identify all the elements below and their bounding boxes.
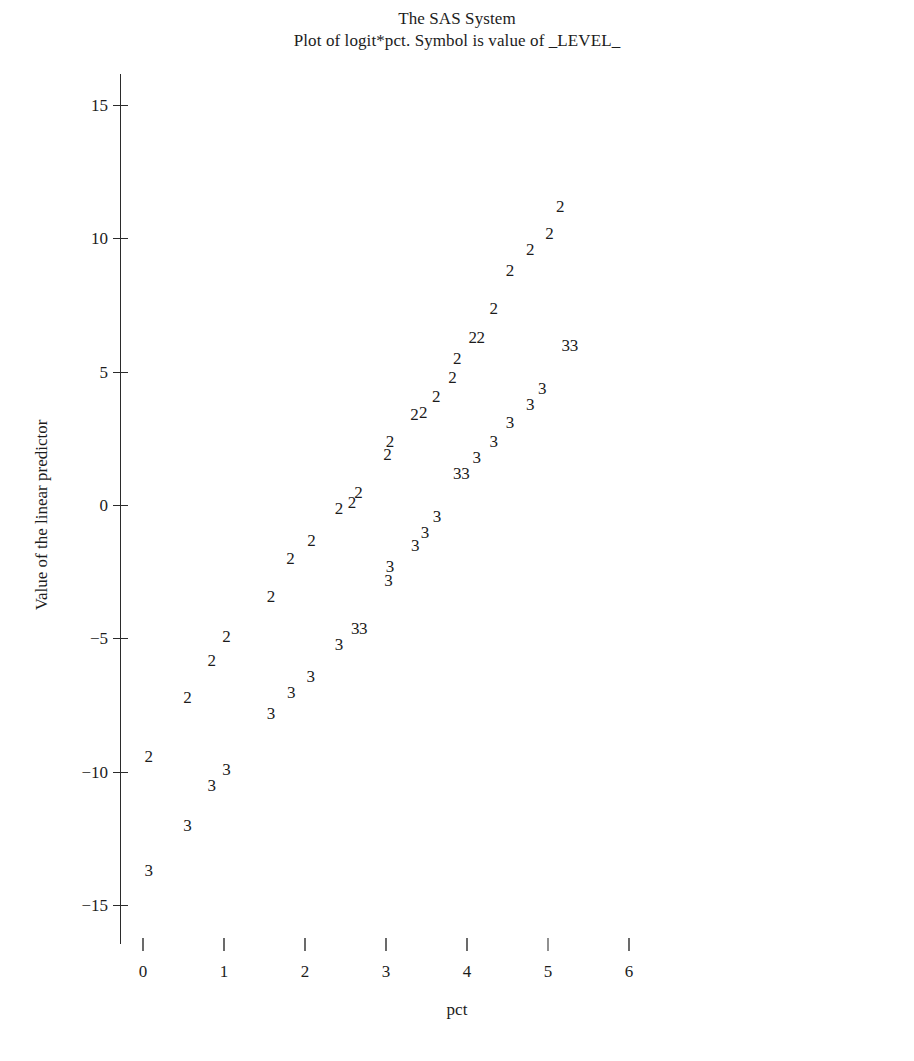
data-point-symbol: 2 — [410, 406, 419, 423]
data-point-symbol: 3 — [386, 558, 395, 575]
data-point-symbol: 2 — [489, 299, 498, 316]
data-point-symbol: 2 — [556, 198, 565, 215]
data-point-symbol: 2 — [453, 350, 462, 367]
y-axis-title: Value of the linear predictor — [32, 365, 52, 665]
ytick-label: −10 — [48, 763, 108, 783]
ytick-label: −5 — [48, 629, 108, 649]
ytick-label: −15 — [48, 896, 108, 916]
data-point-symbol: 2 — [545, 225, 554, 242]
ytick-label: 15 — [48, 96, 108, 116]
x-axis-line — [0, 930, 914, 954]
data-point-symbol: 3 — [222, 761, 231, 778]
xtick-label: 5 — [528, 962, 568, 982]
data-point-symbol: 2 — [144, 747, 153, 764]
ytick-label: 10 — [48, 229, 108, 249]
data-point-symbol: 3 — [433, 507, 442, 524]
data-point-symbol: 2 — [208, 651, 217, 668]
y-axis-line — [120, 74, 121, 944]
data-point-symbol: 3 — [526, 395, 535, 412]
data-point-symbol: 2 — [477, 329, 486, 346]
data-point-symbol: 2 — [506, 262, 515, 279]
data-point-symbol: 3 — [335, 635, 344, 652]
data-point-symbol: 2 — [286, 550, 295, 567]
data-point-symbol: 3 — [472, 449, 481, 466]
data-point-symbol: 3 — [411, 537, 420, 554]
data-point-symbol: 2 — [448, 369, 457, 386]
data-point-symbol: 3 — [489, 433, 498, 450]
ytick-label: 5 — [48, 363, 108, 383]
xtick-label: 6 — [609, 962, 649, 982]
data-point-symbol: 3 — [183, 817, 192, 834]
data-point-symbol: 3 — [267, 705, 276, 722]
data-point-symbol: 3 — [208, 777, 217, 794]
data-point-symbol: 2 — [267, 587, 276, 604]
xtick-label: 3 — [366, 962, 406, 982]
data-point-symbol: 3 — [570, 337, 579, 354]
data-point-symbol: 3 — [287, 683, 296, 700]
plot-area: 15 10 5 0 −5 −10 −15 0 1 2 3 4 5 6 pct V… — [0, 0, 914, 1061]
data-point-symbol: 2 — [354, 483, 363, 500]
data-point-symbol: 3 — [538, 379, 547, 396]
data-point-symbol: 3 — [144, 862, 153, 879]
data-point-symbol: 2 — [335, 499, 344, 516]
data-point-symbol: 2 — [386, 433, 395, 450]
xtick-label: 1 — [204, 962, 244, 982]
xtick-label: 4 — [447, 962, 487, 982]
ytick-label: 0 — [48, 496, 108, 516]
data-point-symbol: 3 — [306, 667, 315, 684]
data-point-symbol: 3 — [421, 523, 430, 540]
sas-plot-figure: The SAS System Plot of logit*pct. Symbol… — [0, 0, 914, 1061]
data-point-symbol: 3 — [359, 619, 368, 636]
data-point-symbol: 3 — [506, 414, 515, 431]
data-point-symbol: 2 — [526, 241, 535, 258]
data-point-symbol: 3 — [461, 465, 470, 482]
xtick-label: 2 — [285, 962, 325, 982]
data-point-symbol: 2 — [419, 403, 428, 420]
xtick-label: 0 — [123, 962, 163, 982]
data-point-symbol: 2 — [222, 627, 231, 644]
data-point-symbol: 2 — [432, 387, 441, 404]
data-point-symbol: 2 — [183, 689, 192, 706]
data-point-symbol: 2 — [307, 531, 316, 548]
x-axis-title: pct — [0, 1000, 914, 1020]
